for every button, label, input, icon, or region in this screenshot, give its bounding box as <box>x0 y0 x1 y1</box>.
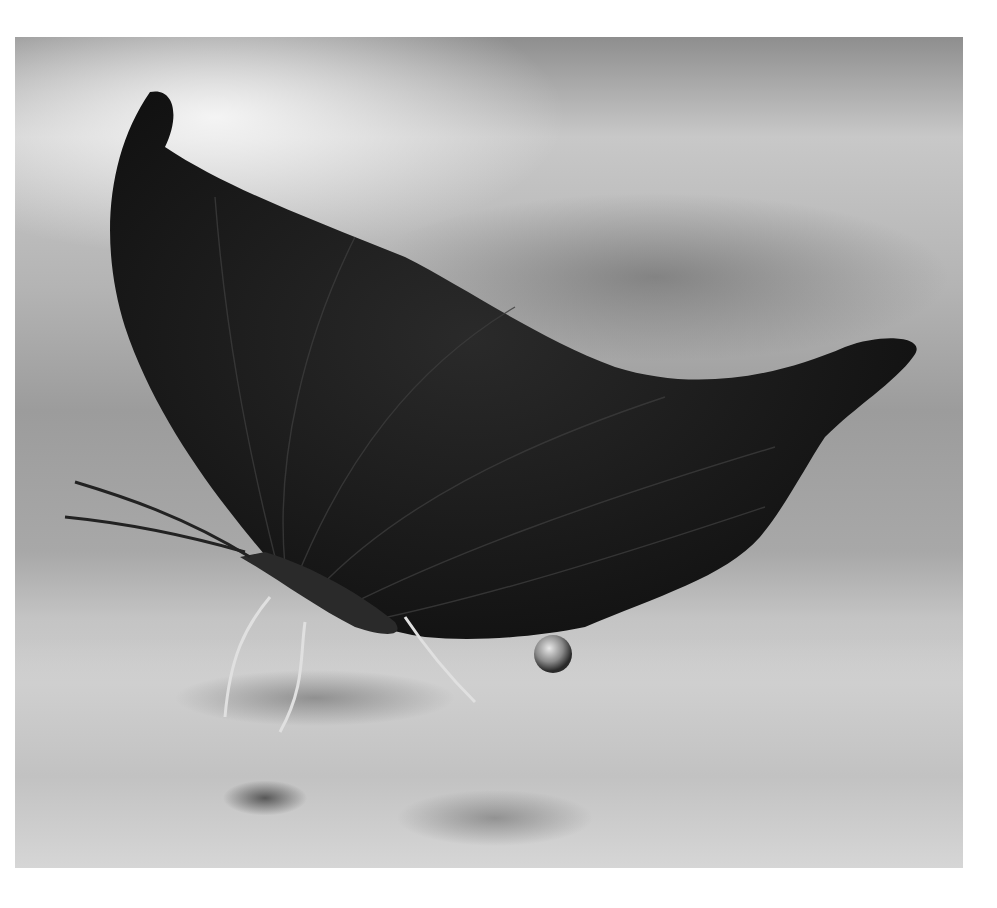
wing <box>110 91 917 639</box>
antenna <box>65 517 245 552</box>
butterfly-silhouette <box>15 37 963 868</box>
butterfly-photo <box>15 37 963 868</box>
water-droplet <box>534 635 572 673</box>
